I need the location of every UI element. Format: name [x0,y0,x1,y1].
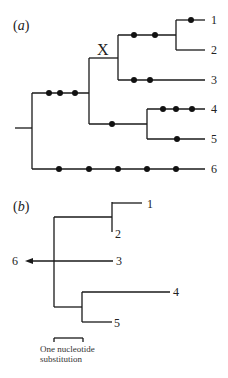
tip-label-6: 6 [211,162,217,176]
substitution-dot [109,121,115,127]
tip-label-4: 4 [211,102,217,116]
tip-label-5: 5 [114,316,120,330]
tip-label-2: 2 [115,227,121,241]
substitution-dot [46,90,52,96]
substitution-dot [144,166,150,172]
tip-label-3: 3 [116,254,122,268]
tip-label-2: 2 [211,43,217,57]
panel-b-label: (b) [13,199,30,215]
substitution-dot [115,166,121,172]
tip-label-6: 6 [12,254,18,268]
arrow-left-icon [25,258,33,264]
scale-bar-label-line2: substitution [40,354,83,364]
tip-label-3: 3 [211,73,217,87]
substitution-dot [189,106,195,112]
substitution-dot [72,90,78,96]
scale-bar: One nucleotide substitution [40,338,95,364]
phylogeny-figure: (a) X 1 2 3 [0,0,228,378]
substitution-dot [57,90,63,96]
substitution-dot [173,106,179,112]
substitution-dot [131,32,137,38]
node-x-label: X [97,41,109,58]
tip-label-4: 4 [173,285,179,299]
tip-label-1: 1 [211,13,217,27]
scale-bar-label-line1: One nucleotide [40,344,95,354]
substitution-dot [147,77,153,83]
substitution-dot [188,17,194,23]
tip-label-5: 5 [211,132,217,146]
substitution-dot [131,77,137,83]
panel-b: (b) 1 2 3 6 4 5 One nucleotide substitut… [12,197,179,364]
substitution-dot [160,106,166,112]
substitution-dot [152,32,158,38]
panel-a: (a) X 1 2 3 [13,13,217,176]
panel-a-label: (a) [13,18,30,34]
substitution-dot [174,136,180,142]
substitution-dot [173,166,179,172]
substitution-dot [86,166,92,172]
tip-label-1: 1 [147,197,153,211]
substitution-dot [56,166,62,172]
